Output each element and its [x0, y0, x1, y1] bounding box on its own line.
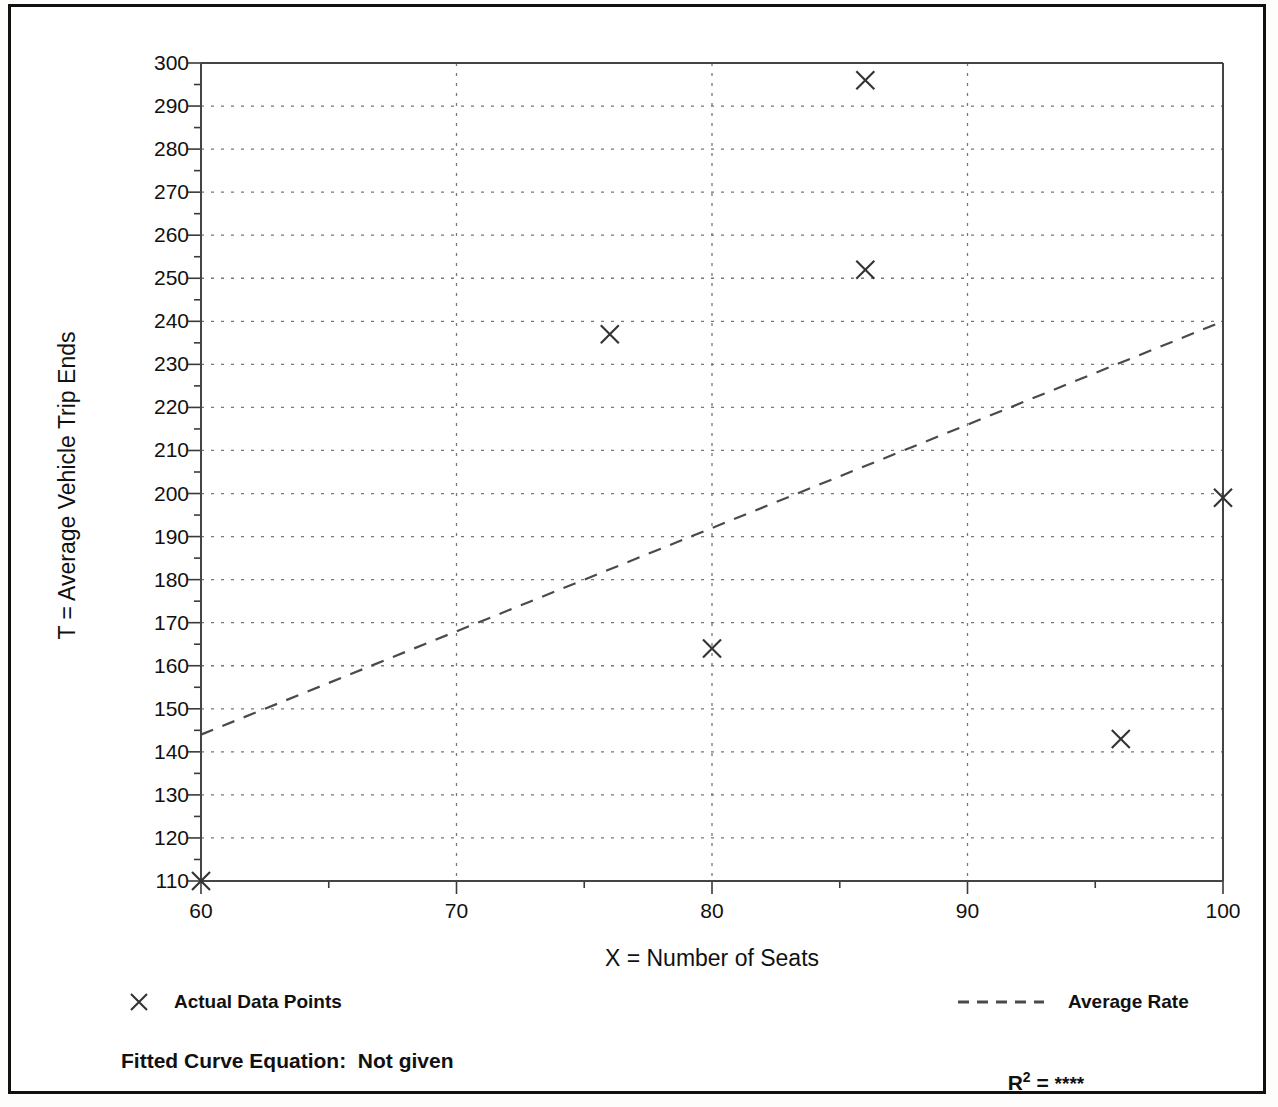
x-marker-icon	[126, 989, 152, 1015]
fitted-curve-equation: Fitted Curve Equation: Not given	[121, 1049, 454, 1073]
y-tick-label: 220	[129, 396, 189, 417]
y-tick-label: 280	[129, 138, 189, 159]
legend-label-average-rate: Average Rate	[1068, 991, 1189, 1013]
y-tick-label: 260	[129, 224, 189, 245]
y-axis-tick-labels: 1101201301401501601701801902002102202302…	[121, 7, 189, 1107]
y-tick-label: 240	[129, 310, 189, 331]
x-tick-label: 80	[672, 900, 752, 921]
y-tick-label: 300	[129, 52, 189, 73]
r-squared-stars: ****	[1055, 1073, 1085, 1094]
y-tick-label: 150	[129, 698, 189, 719]
x-tick-label: 100	[1183, 900, 1263, 921]
y-tick-label: 110	[129, 870, 189, 891]
y-tick-label: 230	[129, 353, 189, 374]
x-tick-label: 60	[161, 900, 241, 921]
plot-area	[201, 63, 1223, 881]
scanned-page: T = Average Vehicle Trip Ends 1101201301…	[0, 0, 1278, 1107]
y-tick-label: 180	[129, 569, 189, 590]
legend-entry-data-points: Actual Data Points	[126, 989, 342, 1015]
data-point-x-marker	[601, 325, 619, 343]
y-tick-label: 160	[129, 655, 189, 676]
r-squared-equals: =	[1031, 1071, 1055, 1094]
y-tick-label: 210	[129, 439, 189, 460]
r-squared-value: R2 = ****	[961, 1045, 1084, 1107]
data-point-x-marker	[856, 261, 874, 279]
axis-tick-marks	[188, 63, 1223, 894]
legend-entry-average-rate: Average Rate	[956, 989, 1189, 1015]
r-squared-exponent: 2	[1023, 1069, 1031, 1085]
y-tick-label: 250	[129, 267, 189, 288]
data-point-x-marker	[1112, 730, 1130, 748]
y-tick-label: 170	[129, 612, 189, 633]
x-tick-label: 90	[928, 900, 1008, 921]
y-tick-label: 190	[129, 526, 189, 547]
y-tick-label: 130	[129, 784, 189, 805]
grid-lines	[201, 63, 1223, 881]
chart-footer: Fitted Curve Equation: Not given R2 = **…	[51, 1045, 1251, 1085]
y-tick-label: 200	[129, 483, 189, 504]
r-squared-symbol: R	[1008, 1071, 1023, 1094]
y-tick-label: 290	[129, 95, 189, 116]
x-tick-label: 70	[417, 900, 497, 921]
legend-label-data-points: Actual Data Points	[174, 991, 342, 1013]
dashed-line-icon	[956, 989, 1046, 1015]
x-axis-title: X = Number of Seats	[201, 945, 1223, 972]
chart-frame-border: T = Average Vehicle Trip Ends 1101201301…	[8, 4, 1266, 1094]
data-point-x-marker	[856, 71, 874, 89]
y-axis-title: T = Average Vehicle Trip Ends	[54, 226, 81, 746]
y-tick-label: 140	[129, 741, 189, 762]
y-tick-label: 270	[129, 181, 189, 202]
y-tick-label: 120	[129, 827, 189, 848]
chart-legend: Actual Data Points Average Rate	[51, 989, 1241, 1029]
x-axis-tick-labels: 60708090100	[201, 900, 1223, 930]
chart-canvas	[201, 63, 1223, 881]
